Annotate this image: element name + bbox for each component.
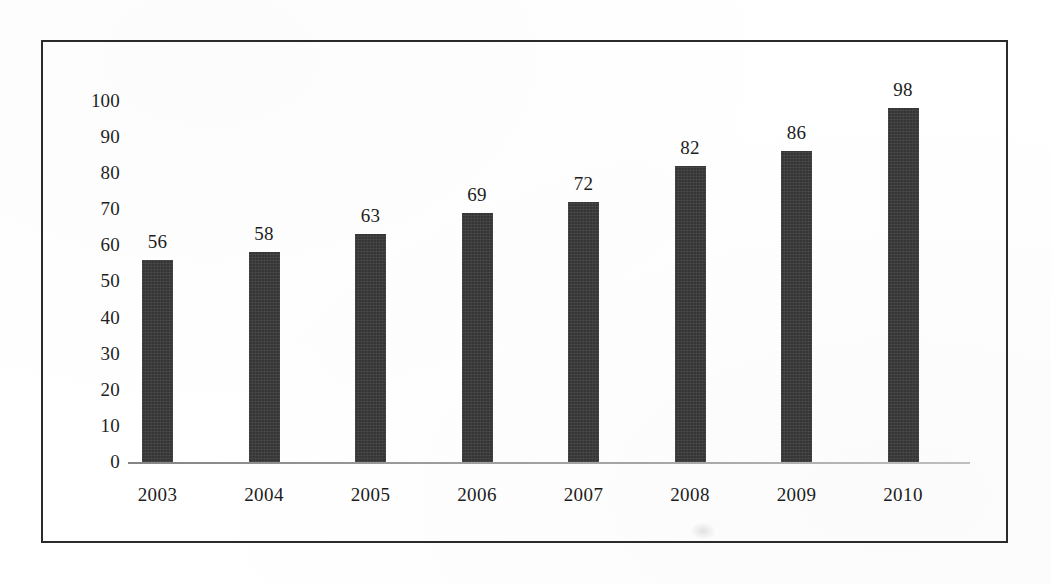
scanned-chart-page: 1009080706050403020100 5658636972828698 …	[0, 0, 1051, 584]
chart-border-frame	[41, 40, 1008, 543]
